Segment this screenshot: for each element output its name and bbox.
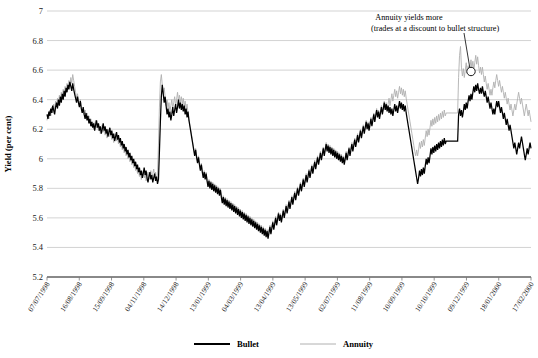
y-axis-tick-label-6.8: 6.8 xyxy=(32,36,43,46)
y-axis-tick-label-6.6: 6.6 xyxy=(32,65,43,75)
x-axis-tick-label-7: 13/04/1999 xyxy=(252,280,278,313)
y-axis-title: Yield (per cent) xyxy=(3,115,13,172)
y-axis-tick-label-5.6: 5.6 xyxy=(32,213,43,223)
x-axis-tick-label-15: 17/02/2000 xyxy=(510,280,536,313)
x-axis-tick-label-14: 18/01/2000 xyxy=(478,280,504,313)
x-axis-tick-label-8: 13/05/1999 xyxy=(284,280,310,313)
annotation-line-2: (trades at a discount to bullet structur… xyxy=(371,24,500,33)
y-gridlines: 5.25.45.65.866.26.46.66.87 xyxy=(32,6,531,282)
x-axis-tick-label-11: 10/09/1999 xyxy=(381,280,407,313)
x-axis-tick-label-6: 04/03/1999 xyxy=(219,280,245,313)
annotation-line-1: Annuity yields more xyxy=(375,13,443,22)
y-axis-tick-label-6: 6 xyxy=(39,154,43,164)
y-axis-tick-label-5.2: 5.2 xyxy=(32,272,43,282)
legend-label-annuity: Annuity xyxy=(343,339,374,349)
annotation-marker-circle xyxy=(467,67,475,75)
x-axis-tick-label-10: 11/08/1999 xyxy=(349,280,375,313)
series-line-bullet xyxy=(47,82,531,239)
x-axis-tick-label-1: 16/08/1998 xyxy=(58,280,84,313)
x-axis-tick-label-13: 09/12/1999 xyxy=(445,280,471,313)
x-axis-tick-label-4: 14/12/1998 xyxy=(155,280,181,313)
annotation-callout: Annuity yields more(trades at a discount… xyxy=(371,13,500,76)
yield-comparison-chart: 5.25.45.65.866.26.46.66.87Yield (per cen… xyxy=(0,0,538,358)
x-axis-tick-label-12: 10/10/1999 xyxy=(413,280,439,313)
x-axis-tick-label-0: 07/07/1998 xyxy=(26,280,52,313)
y-axis-tick-label-5.8: 5.8 xyxy=(32,183,43,193)
x-axis-tick-label-5: 13/01/1999 xyxy=(187,280,213,313)
annotation-leader-line xyxy=(464,33,470,69)
chart-legend: BulletAnnuity xyxy=(194,339,374,349)
x-axis: 07/07/199816/08/199815/09/199804/11/1998… xyxy=(26,277,536,313)
y-axis-tick-label-5.4: 5.4 xyxy=(32,242,43,252)
y-axis-tick-label-6.4: 6.4 xyxy=(32,95,43,105)
legend-label-bullet: Bullet xyxy=(237,339,259,349)
chart-container: 5.25.45.65.866.26.46.66.87Yield (per cen… xyxy=(0,0,538,358)
y-axis-tick-label-7: 7 xyxy=(39,6,43,16)
y-axis-tick-label-6.2: 6.2 xyxy=(32,124,43,134)
x-axis-tick-label-2: 15/09/1998 xyxy=(90,280,116,313)
x-axis-tick-label-9: 02/07/1999 xyxy=(316,280,342,313)
x-axis-tick-label-3: 04/11/1998 xyxy=(123,280,149,313)
